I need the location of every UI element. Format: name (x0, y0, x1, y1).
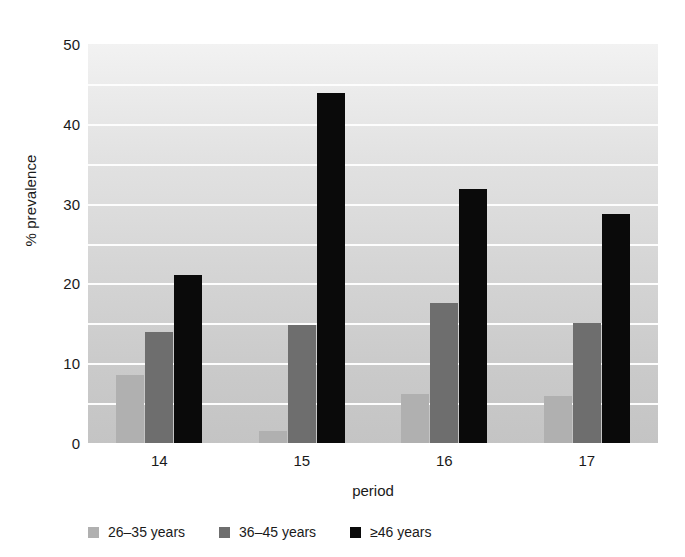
y-axis-title: % prevalence (22, 111, 39, 291)
bar (573, 323, 601, 443)
legend-label: 26–35 years (108, 524, 185, 540)
bar (145, 332, 173, 443)
legend-swatch-icon (88, 527, 99, 538)
bar (602, 214, 630, 443)
legend-label: 36–45 years (239, 524, 316, 540)
bar-group (88, 44, 231, 443)
y-tick-label: 50 (40, 37, 80, 52)
x-tick-cell: 14 (88, 452, 231, 470)
y-axis-tick-labels: 01020304050 (40, 30, 80, 455)
x-tick-label: 14 (151, 452, 168, 469)
legend-item: 26–35 years (88, 524, 185, 540)
bar (544, 396, 572, 443)
plot-area (88, 44, 658, 443)
y-tick-label: 10 (40, 356, 80, 371)
legend-swatch-icon (350, 527, 361, 538)
bar-group (516, 44, 659, 443)
chart-legend: 26–35 years36–45 years≥46 years (88, 524, 658, 540)
y-tick-label: 20 (40, 276, 80, 291)
bar (459, 189, 487, 443)
bar-group (231, 44, 374, 443)
legend-item: 36–45 years (219, 524, 316, 540)
bar (259, 431, 287, 443)
legend-item: ≥46 years (350, 524, 431, 540)
x-tick-label: 16 (436, 452, 453, 469)
x-tick-cell: 17 (516, 452, 659, 470)
y-tick-label: 0 (40, 436, 80, 451)
bar (430, 303, 458, 443)
x-axis-tick-labels: 14151617 (88, 452, 658, 470)
y-tick-label: 30 (40, 197, 80, 212)
x-axis-title: period (88, 482, 658, 499)
x-tick-label: 17 (578, 452, 595, 469)
bars-layer (88, 44, 658, 443)
bar (174, 275, 202, 443)
x-tick-cell: 16 (373, 452, 516, 470)
x-tick-cell: 15 (231, 452, 374, 470)
bar (317, 93, 345, 443)
bar (116, 375, 144, 443)
bar-group (373, 44, 516, 443)
x-tick-label: 15 (293, 452, 310, 469)
legend-label: ≥46 years (370, 524, 431, 540)
bar (401, 394, 429, 443)
bar-chart: % prevalence 01020304050 14151617 period… (0, 0, 685, 557)
legend-swatch-icon (219, 527, 230, 538)
y-tick-label: 40 (40, 117, 80, 132)
bar (288, 325, 316, 443)
